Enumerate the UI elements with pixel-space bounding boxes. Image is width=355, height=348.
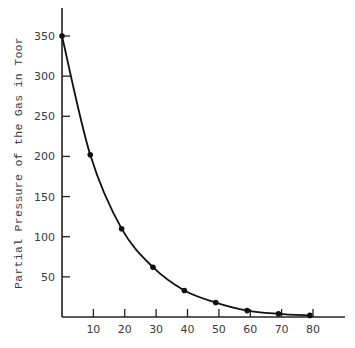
y-tick-label: 100 — [34, 231, 55, 244]
y-tick-label: 50 — [41, 271, 55, 284]
y-tick-label: 200 — [34, 150, 55, 163]
data-point — [276, 311, 282, 317]
y-tick-label: 150 — [34, 191, 55, 204]
data-point — [59, 33, 65, 39]
x-tick-label: 30 — [149, 323, 163, 336]
data-point — [307, 313, 313, 319]
data-point — [87, 152, 93, 158]
chart: 50100150200250300350 1020304050607080 Pa… — [0, 0, 355, 348]
x-tick-label: 60 — [243, 323, 257, 336]
data-point — [119, 226, 125, 232]
x-tick-label: 10 — [86, 323, 100, 336]
data-curve — [62, 36, 310, 315]
x-tick-label: 20 — [118, 323, 132, 336]
x-tick-label: 50 — [212, 323, 226, 336]
y-tick-label: 300 — [34, 70, 55, 83]
y-tick-label: 350 — [34, 30, 55, 43]
data-point — [213, 300, 219, 306]
data-point — [182, 288, 188, 294]
data-point — [244, 308, 250, 314]
x-tick-label: 40 — [181, 323, 195, 336]
data-point — [150, 264, 156, 270]
x-tick-label: 70 — [275, 323, 289, 336]
y-tick-label: 250 — [34, 110, 55, 123]
axes — [62, 8, 345, 317]
y-axis-title: Partial Pressure of the Gas in Toor — [12, 37, 25, 289]
y-ticks: 50100150200250300350 — [34, 30, 70, 284]
x-tick-label: 80 — [306, 323, 320, 336]
x-ticks: 1020304050607080 — [86, 309, 320, 336]
